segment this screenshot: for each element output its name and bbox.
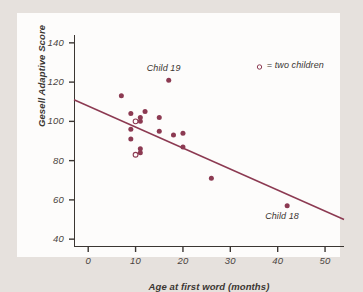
x-tick-label: 20 — [167, 255, 199, 266]
x-tick-label: 30 — [214, 255, 246, 266]
point-annotation: Child 18 — [265, 211, 299, 221]
y-tick-label: 60 — [32, 194, 64, 205]
point-annotation: Child 19 — [147, 63, 181, 73]
y-tick-label: 80 — [32, 155, 64, 166]
legend-label: = two children — [267, 60, 324, 70]
y-tick-label: 40 — [32, 233, 64, 244]
y-tick-label: 140 — [32, 37, 64, 48]
plot-area: Gesell Adaptive Score Age at first word … — [74, 35, 344, 247]
x-tick-label: 50 — [309, 255, 341, 266]
x-tick-label: 40 — [262, 255, 294, 266]
y-tick-label: 100 — [32, 115, 64, 126]
legend: = two children — [255, 60, 324, 70]
x-tick-label: 0 — [72, 255, 104, 266]
x-axis-title: Age at first word (months) — [74, 281, 344, 292]
x-tick-label: 10 — [120, 255, 152, 266]
legend-open-circle-icon — [255, 62, 264, 71]
chart-panel: Gesell Adaptive Score Age at first word … — [17, 13, 340, 257]
y-tick-label: 120 — [32, 76, 64, 87]
